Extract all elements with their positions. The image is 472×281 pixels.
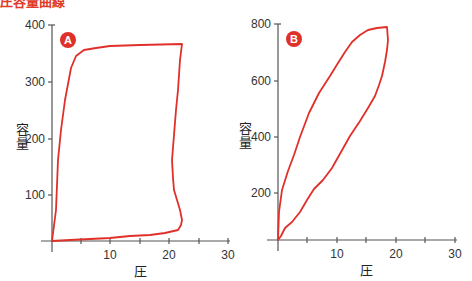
- y-axis-title-b-1: 容: [239, 121, 252, 136]
- x-tick-label: 30: [448, 247, 462, 261]
- y-tick-label: 400: [25, 18, 45, 32]
- panel-badge-a-label: A: [64, 34, 72, 46]
- y-tick-label: 400: [251, 130, 271, 144]
- pressure-volume-loop-b: [278, 27, 388, 240]
- x-tick-label: 10: [330, 247, 344, 261]
- x-tick-label: 30: [221, 248, 235, 262]
- chart-panel-a: 400 300 200 100 10 20 30 圧 容 量 A: [16, 18, 235, 279]
- pressure-volume-loop-a: [52, 44, 182, 241]
- y-axis-title-b-2: 量: [239, 135, 252, 150]
- y-tick-label: 100: [25, 188, 45, 202]
- y-tick-label: 200: [251, 186, 271, 200]
- x-axis-title-a: 圧: [134, 264, 147, 279]
- x-tick-label: 20: [389, 247, 403, 261]
- x-axis-title-b: 圧: [360, 263, 373, 278]
- panel-badge-b-label: B: [290, 33, 298, 45]
- x-tick-label: 10: [103, 248, 117, 262]
- x-tick-label: 20: [162, 248, 176, 262]
- y-tick-label: 300: [25, 75, 45, 89]
- chart-panel-b: 800 600 400 200 10 20 30 圧 容 量 B: [239, 17, 462, 278]
- y-axis-title-a-1: 容: [16, 122, 29, 137]
- y-tick-label: 600: [251, 74, 271, 88]
- chart-canvas: 400 300 200 100 10 20 30 圧 容 量 A: [0, 0, 472, 281]
- y-tick-label: 800: [251, 17, 271, 31]
- y-axis-title-a-2: 量: [16, 136, 29, 151]
